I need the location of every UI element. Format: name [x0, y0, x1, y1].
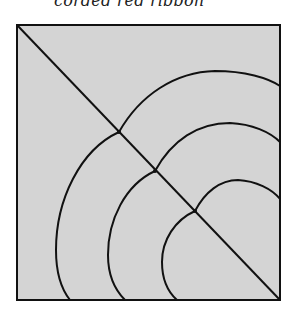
junction-point-3 [193, 209, 197, 213]
junction-point-2 [153, 169, 157, 173]
junction-point-1 [117, 130, 121, 134]
folding-diagram [0, 0, 296, 318]
